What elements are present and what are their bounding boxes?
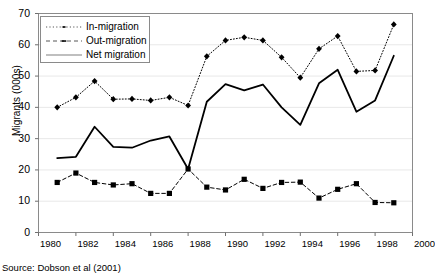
data-point-in-migration bbox=[148, 97, 154, 103]
legend-label: Net migration bbox=[86, 49, 145, 60]
y-tick-label: 10 bbox=[4, 194, 30, 206]
data-point-out-migration bbox=[92, 180, 97, 185]
x-tick-label: 1994 bbox=[302, 238, 323, 249]
legend-symbol-dotted-diamond bbox=[46, 26, 82, 28]
series-line bbox=[57, 56, 394, 169]
x-tick-label: 1992 bbox=[264, 238, 285, 249]
x-tick-label: 1982 bbox=[77, 238, 98, 249]
data-point-out-migration bbox=[111, 182, 116, 187]
y-tick-label: 40 bbox=[4, 100, 30, 112]
data-point-out-migration bbox=[223, 187, 228, 192]
data-point-out-migration bbox=[73, 170, 78, 175]
data-point-out-migration bbox=[391, 200, 396, 205]
y-tick-label: 20 bbox=[4, 163, 30, 175]
x-tick-label: 1998 bbox=[377, 238, 398, 249]
x-tick-label: 2000 bbox=[414, 238, 435, 249]
data-point-out-migration bbox=[148, 191, 153, 196]
y-tick-label: 30 bbox=[4, 132, 30, 144]
data-point-in-migration bbox=[354, 68, 360, 74]
data-point-in-migration bbox=[372, 67, 378, 73]
legend-symbol-dashed-square bbox=[46, 40, 82, 42]
data-point-out-migration bbox=[298, 180, 303, 185]
x-tick-label: 1988 bbox=[190, 238, 211, 249]
data-point-in-migration bbox=[54, 104, 60, 110]
data-point-in-migration bbox=[391, 21, 397, 27]
data-point-out-migration bbox=[260, 186, 265, 191]
data-point-out-migration bbox=[335, 187, 340, 192]
source-note: Source: Dobson et al (2001) bbox=[2, 262, 121, 273]
data-point-in-migration bbox=[297, 75, 303, 81]
x-tick-label: 1990 bbox=[227, 238, 248, 249]
chart-legend: In-migration Out-migration Net migration bbox=[40, 16, 150, 63]
y-tick-label: 60 bbox=[4, 38, 30, 50]
legend-label: Out-migration bbox=[86, 35, 147, 46]
legend-label: In-migration bbox=[86, 21, 139, 32]
data-point-out-migration bbox=[204, 185, 209, 190]
data-point-in-migration bbox=[316, 46, 322, 52]
data-point-in-migration bbox=[241, 34, 247, 40]
data-point-out-migration bbox=[167, 191, 172, 196]
data-point-out-migration bbox=[279, 180, 284, 185]
legend-symbol-solid-line bbox=[46, 54, 82, 56]
y-tick-label: 0 bbox=[4, 226, 30, 238]
series-line bbox=[57, 169, 394, 203]
x-tick-label: 1980 bbox=[40, 238, 61, 249]
data-point-out-migration bbox=[316, 195, 321, 200]
data-point-in-migration bbox=[335, 33, 341, 39]
data-point-out-migration bbox=[373, 200, 378, 205]
y-tick-label: 70 bbox=[4, 7, 30, 19]
data-point-out-migration bbox=[242, 177, 247, 182]
data-point-in-migration bbox=[129, 96, 135, 102]
data-point-out-migration bbox=[55, 180, 60, 185]
y-tick-label: 50 bbox=[4, 69, 30, 81]
x-tick-label: 1996 bbox=[339, 238, 360, 249]
x-tick-label: 1986 bbox=[152, 238, 173, 249]
x-tick-label: 1984 bbox=[115, 238, 136, 249]
data-point-in-migration bbox=[167, 94, 173, 100]
data-point-out-migration bbox=[129, 181, 134, 186]
data-point-out-migration bbox=[354, 181, 359, 186]
